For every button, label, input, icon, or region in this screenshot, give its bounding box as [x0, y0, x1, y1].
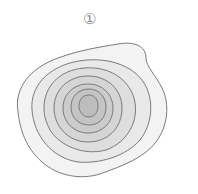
contour-inner — [79, 95, 98, 117]
contour-map — [0, 0, 198, 194]
